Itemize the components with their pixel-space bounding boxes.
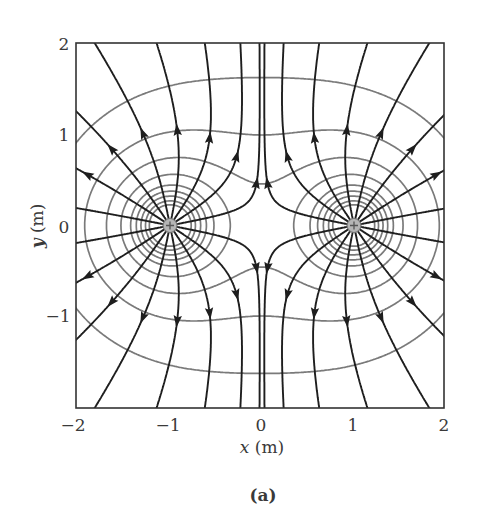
y-axis-variable: y bbox=[27, 238, 47, 248]
y-tick-label: 2 bbox=[59, 34, 70, 54]
x-tick-label: 1 bbox=[348, 415, 359, 435]
field-line bbox=[359, 164, 456, 222]
x-tick-label: −1 bbox=[155, 415, 180, 435]
field-line bbox=[69, 164, 166, 222]
arrow-icon bbox=[231, 149, 242, 163]
x-tick-label: 2 bbox=[439, 415, 450, 435]
electric-field-lines bbox=[68, 33, 455, 418]
field-line bbox=[355, 33, 435, 220]
field-line bbox=[89, 231, 169, 418]
field-line bbox=[359, 229, 456, 287]
arrow-icon bbox=[231, 288, 242, 302]
figure-caption: (a) bbox=[249, 485, 276, 505]
field-line bbox=[69, 207, 165, 225]
y-tick-label: −1 bbox=[45, 306, 70, 326]
y-axis-unit: (m) bbox=[27, 204, 47, 239]
equipotential-contour bbox=[149, 205, 374, 246]
field-diagram: −2 −1 0 1 2 2 1 0 −1 x (m) y (m) (a) bbox=[0, 0, 480, 530]
field-line bbox=[359, 207, 455, 225]
field-line bbox=[69, 227, 165, 245]
x-tick-label: −2 bbox=[60, 415, 85, 435]
field-line bbox=[69, 229, 166, 287]
field-line bbox=[355, 231, 435, 418]
arrow-icon bbox=[430, 270, 445, 283]
arrow-icon bbox=[282, 288, 293, 302]
arrow-icon bbox=[80, 168, 95, 181]
equipotential-lines bbox=[73, 78, 450, 374]
y-tick-label: 1 bbox=[59, 125, 70, 145]
arrow-icon bbox=[282, 149, 293, 163]
field-direction-arrows bbox=[80, 123, 444, 328]
y-tick-label: 0 bbox=[59, 217, 70, 237]
field-line bbox=[359, 227, 455, 245]
y-axis-title: y (m) bbox=[27, 204, 47, 249]
arrow-icon bbox=[430, 168, 445, 181]
x-tick-label: 0 bbox=[256, 415, 267, 435]
equipotential-contour bbox=[85, 130, 440, 321]
x-axis-title: x (m) bbox=[240, 437, 284, 457]
arrow-icon bbox=[80, 270, 95, 283]
field-line bbox=[89, 33, 169, 220]
x-axis-unit: (m) bbox=[249, 437, 284, 457]
x-axis-variable: x bbox=[240, 437, 250, 457]
